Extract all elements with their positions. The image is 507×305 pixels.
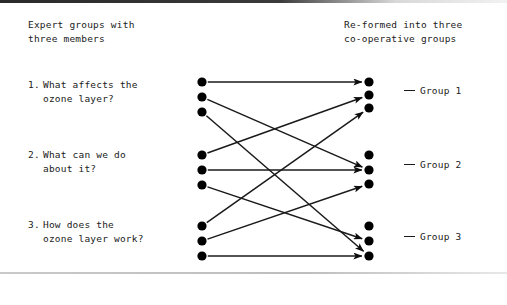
cooperative-member-node (364, 179, 373, 188)
mapping-diagram (0, 0, 507, 305)
cooperative-member-node (364, 103, 373, 112)
cooperative-member-node (364, 221, 373, 230)
page-margin-bottom (0, 274, 507, 305)
expert-member-node (197, 236, 206, 245)
cooperative-member-node (364, 150, 373, 159)
cooperative-member-node (364, 251, 373, 260)
expert-member-node (197, 92, 206, 101)
expert-member-node (197, 221, 206, 230)
expert-member-node (197, 77, 206, 86)
connector-arrow (207, 99, 362, 167)
connector-arrow (207, 97, 362, 153)
expert-member-node (197, 107, 206, 116)
edge-layer (206, 82, 363, 256)
figure-canvas: Expert groups with three members Re-form… (0, 0, 507, 305)
expert-member-node (197, 150, 206, 159)
expert-member-node (197, 251, 206, 260)
cooperative-member-node (364, 236, 373, 245)
expert-member-node (197, 180, 206, 189)
connector-arrow (207, 112, 363, 222)
cooperative-member-node (364, 77, 373, 86)
cooperative-member-node (364, 165, 373, 174)
cooperative-member-node (364, 90, 373, 99)
expert-member-node (197, 165, 206, 174)
